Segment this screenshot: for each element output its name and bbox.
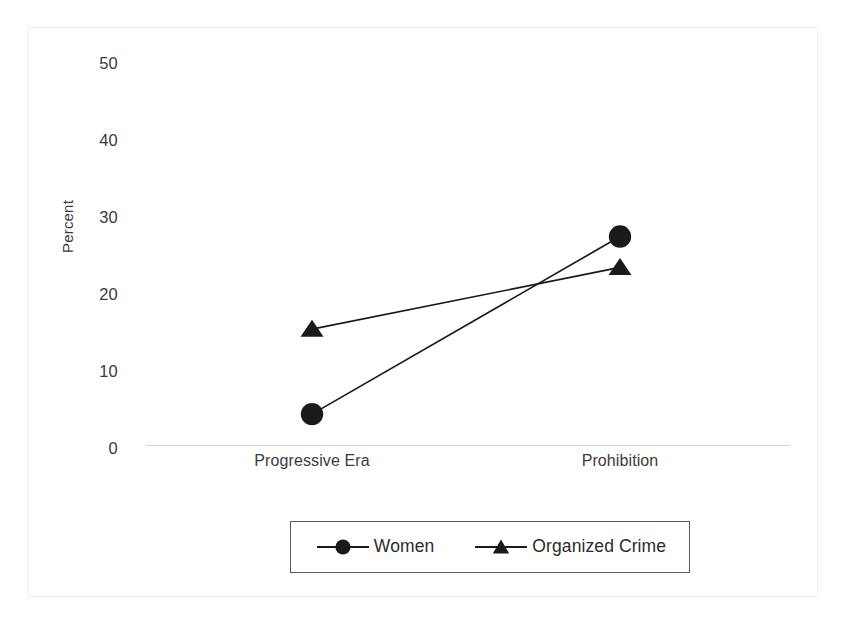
legend-entry-women[interactable]: Women — [314, 536, 434, 558]
legend: Women Organized Crime — [290, 521, 690, 573]
legend-entry-organized-crime[interactable]: Organized Crime — [472, 536, 666, 558]
triangle-marker-icon — [472, 536, 530, 558]
chart-figure: Percent 50 40 30 20 10 0 Progressive Era… — [0, 0, 844, 622]
data-point-organized-crime-1[interactable] — [609, 258, 632, 275]
legend-label: Women — [374, 538, 434, 556]
series-line-organized-crime — [312, 267, 620, 329]
data-point-women-0[interactable] — [301, 403, 323, 425]
circle-marker-icon — [314, 536, 372, 558]
legend-label: Organized Crime — [532, 538, 666, 556]
series-line-women — [312, 237, 620, 415]
data-point-women-1[interactable] — [609, 225, 631, 247]
